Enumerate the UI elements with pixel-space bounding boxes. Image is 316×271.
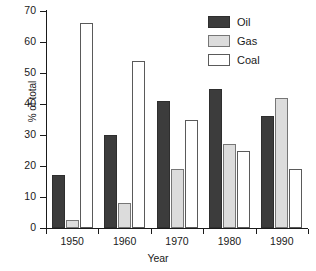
x-axis-line [46,228,308,229]
y-tick-label: 30 [2,129,36,139]
bar-gas-1950 [66,220,79,228]
bar-chart: % of total 010203040506070 1950196019701… [0,0,316,271]
y-tick-label: 0 [2,222,36,232]
bar-gas-1970 [171,169,184,228]
legend-item-oil: Oil [208,13,308,31]
bar-oil-1990 [261,116,274,228]
legend-label-oil: Oil [237,16,250,28]
bar-gas-1990 [275,98,288,228]
x-tick [151,229,152,234]
legend: Oil Gas Coal [208,13,308,70]
legend-label-gas: Gas [237,35,257,47]
x-tick-label: 1990 [258,236,306,247]
bar-coal-1960 [132,61,145,228]
bar-oil-1950 [52,175,65,228]
legend-swatch-gas-icon [208,35,230,47]
bar-oil-1980 [209,89,222,229]
x-tick-label: 1970 [153,236,201,247]
bar-gas-1980 [223,144,236,228]
y-tick-label: 50 [2,67,36,77]
x-tick [308,229,309,234]
bar-oil-1970 [157,101,170,228]
x-tick [98,229,99,234]
legend-item-gas: Gas [208,32,308,50]
y-tick-label: 40 [2,98,36,108]
legend-label-coal: Coal [237,54,260,66]
bar-coal-1990 [289,169,302,228]
x-tick [256,229,257,234]
x-tick-label: 1950 [48,236,96,247]
bar-coal-1980 [237,151,250,229]
legend-swatch-oil-icon [208,16,230,28]
y-tick-label: 20 [2,160,36,170]
y-tick-label: 60 [2,36,36,46]
x-tick [46,229,47,234]
x-axis-title: Year [0,252,316,264]
bar-coal-1970 [185,120,198,229]
legend-swatch-coal-icon [208,54,230,66]
bar-oil-1960 [104,135,117,228]
x-tick [203,229,204,234]
x-tick-label: 1960 [101,236,149,247]
x-tick-label: 1980 [205,236,253,247]
y-tick-label: 10 [2,191,36,201]
legend-item-coal: Coal [208,51,308,69]
y-tick-label: 70 [2,5,36,15]
bar-coal-1950 [80,23,93,228]
bar-gas-1960 [118,203,131,228]
